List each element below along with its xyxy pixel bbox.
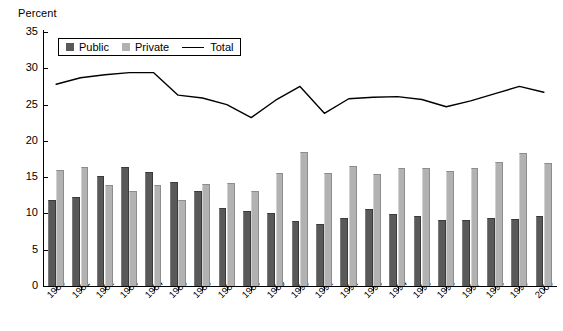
y-axis-label: 15 — [0, 171, 38, 182]
bar-private-1994 — [398, 168, 406, 286]
bar-public-1989 — [267, 213, 275, 286]
bar-private-1993 — [373, 174, 381, 286]
bar-private-1983 — [129, 191, 137, 286]
legend-label-private: Private — [135, 42, 169, 53]
bar-public-1992 — [340, 218, 348, 286]
y-axis-label: 30 — [0, 62, 38, 73]
bar-private-1984 — [154, 185, 162, 286]
y-axis-label: 0 — [0, 280, 38, 291]
bar-public-1980 — [48, 200, 56, 286]
bar-private-1987 — [227, 183, 235, 286]
y-axis-tick — [44, 286, 48, 287]
bar-public-1986 — [194, 191, 202, 286]
bar-private-1985 — [178, 200, 186, 286]
legend-item-public[interactable]: Public — [66, 42, 109, 53]
bar-public-2000 — [536, 216, 544, 286]
bar-private-1999 — [519, 153, 527, 286]
bar-private-1989 — [276, 173, 284, 286]
bar-public-1997 — [462, 220, 470, 286]
bar-public-1987 — [219, 208, 227, 286]
y-axis-title: Percent — [18, 7, 57, 19]
legend-label-public: Public — [79, 42, 109, 53]
bar-public-1996 — [438, 220, 446, 286]
bar-private-1982 — [105, 185, 113, 286]
legend-swatch-private-icon — [122, 43, 130, 51]
bar-private-1980 — [56, 170, 64, 286]
bar-public-1995 — [414, 216, 422, 286]
y-axis-label: 5 — [0, 244, 38, 255]
legend-label-total: Total — [210, 42, 233, 53]
bar-public-1988 — [243, 211, 251, 286]
bar-private-1997 — [471, 168, 479, 286]
bar-public-1999 — [511, 219, 519, 286]
total-line — [56, 73, 544, 118]
legend-line-total-icon — [182, 47, 204, 48]
bar-private-1996 — [446, 171, 454, 286]
bar-private-1992 — [349, 166, 357, 286]
y-axis-label: 25 — [0, 99, 38, 110]
bar-private-1986 — [202, 184, 210, 286]
y-axis-label: 35 — [0, 26, 38, 37]
bar-private-1995 — [422, 168, 430, 286]
bar-private-1991 — [324, 173, 332, 286]
bar-private-1998 — [495, 162, 503, 286]
bar-private-1988 — [251, 191, 259, 286]
bar-public-1981 — [72, 197, 80, 286]
legend-swatch-public-icon — [66, 43, 74, 51]
bar-private-1990 — [300, 152, 308, 286]
plot-area — [44, 32, 556, 286]
bar-public-1994 — [389, 214, 397, 286]
bar-public-1998 — [487, 218, 495, 286]
legend-item-private[interactable]: Private — [122, 42, 169, 53]
bar-private-1981 — [81, 167, 89, 286]
bar-public-1991 — [316, 224, 324, 286]
bar-public-1985 — [170, 182, 178, 287]
bar-public-1982 — [97, 176, 105, 286]
bar-private-2000 — [544, 163, 552, 286]
bar-public-1983 — [121, 167, 129, 286]
chart-legend: Public Private Total — [58, 38, 241, 56]
y-axis-label: 10 — [0, 207, 38, 218]
bar-public-1990 — [292, 221, 300, 286]
legend-item-total[interactable]: Total — [182, 42, 233, 53]
bar-public-1993 — [365, 209, 373, 286]
chart-container: Percent 05101520253035 19801981198219831… — [0, 0, 563, 331]
y-axis-label: 20 — [0, 135, 38, 146]
bar-public-1984 — [145, 172, 153, 286]
